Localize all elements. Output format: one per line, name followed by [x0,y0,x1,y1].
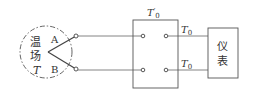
instrument-label-1: 仪 [217,40,228,53]
instrument-label-2: 表 [217,54,228,68]
output-bottom-label: T0 [181,58,192,71]
field-label-1: 温 [30,36,41,49]
output-top-label: T0 [181,24,192,37]
instrument-box: 仪 表 [208,28,238,78]
field-symbol: T [33,64,42,77]
thermocouple-diagram: 温 场 T A B T′0 T0 T0 仪 表 [0,0,254,93]
field-label-2: 场 [30,49,41,63]
compensator-label: T′0 [147,7,160,20]
wire-b-label: B [51,64,58,75]
terminals [74,34,168,72]
wire-a-label: A [50,34,59,45]
compensator-box: T′0 [133,7,178,88]
temperature-field: 温 场 T A B [20,26,72,78]
field-boundary [20,26,72,78]
